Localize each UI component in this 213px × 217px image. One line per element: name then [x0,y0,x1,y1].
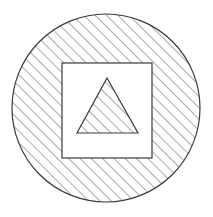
geometric-figure-canvas: Hatched circle containing unhatched squa… [0,0,213,217]
